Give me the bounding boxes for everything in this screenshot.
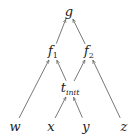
edge-tinit-to-f2 bbox=[74, 60, 85, 81]
edge-f2-to-g bbox=[73, 19, 85, 44]
node-y: y bbox=[82, 120, 89, 133]
node-f2: f2 bbox=[84, 44, 94, 61]
edge-y-to-tinit bbox=[74, 97, 83, 117]
node-z-label: z bbox=[121, 119, 128, 134]
edge-z-to-f2 bbox=[93, 60, 120, 118]
node-tinit-subscript: init bbox=[66, 88, 79, 97]
node-f1-subscript: 1 bbox=[53, 51, 58, 60]
edge-tinit-to-f1 bbox=[57, 60, 66, 81]
node-y-label: y bbox=[82, 119, 89, 134]
edge-f1-to-g bbox=[56, 19, 65, 43]
node-x-label: x bbox=[47, 119, 54, 134]
node-f1: f1 bbox=[48, 44, 58, 61]
node-x: x bbox=[47, 120, 54, 133]
node-g: g bbox=[65, 5, 73, 18]
node-tinit: tinit bbox=[61, 81, 80, 98]
edge-w-to-f1 bbox=[19, 60, 49, 118]
node-w: w bbox=[9, 120, 20, 133]
edge-x-to-tinit bbox=[55, 97, 66, 118]
diagram-edges bbox=[0, 0, 139, 137]
node-w-label: w bbox=[9, 119, 20, 134]
node-g-label: g bbox=[65, 4, 73, 19]
node-f2-subscript: 2 bbox=[89, 51, 94, 60]
node-z: z bbox=[121, 120, 128, 133]
